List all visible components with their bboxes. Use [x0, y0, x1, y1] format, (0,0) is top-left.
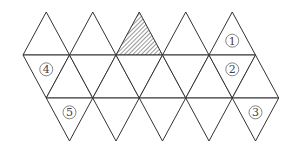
face-label-3: 3 [252, 106, 259, 119]
face-top-5 [209, 12, 256, 55]
face-top-1 [23, 12, 70, 55]
face-bottom-1 [46, 98, 93, 141]
hatched-face [116, 12, 163, 55]
face-top-2 [70, 12, 117, 55]
face-bottom-4 [186, 98, 233, 141]
face-bottom-2 [93, 98, 140, 141]
face-top-4 [163, 12, 210, 55]
icosahedron-net-diagram: 12345 [0, 0, 290, 150]
face-label-5: 5 [66, 106, 73, 119]
face-label-2: 2 [229, 63, 236, 76]
face-label-4: 4 [43, 63, 50, 76]
face-bottom-3 [139, 98, 186, 141]
face-label-1: 1 [229, 35, 236, 48]
face-bottom-5 [232, 98, 279, 141]
